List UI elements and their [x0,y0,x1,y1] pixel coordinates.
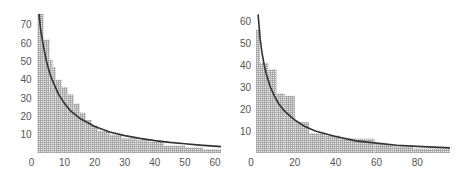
y-tick-label: 10 [240,126,252,137]
histogram-bars [256,30,450,153]
histogram-bar [393,146,413,153]
histogram-bar [325,135,339,153]
x-tick-label: 80 [412,157,424,168]
y-tick-label: 50 [240,38,252,49]
y-tick-label: 30 [240,82,252,93]
histogram-bar [309,133,325,153]
histogram-bar [434,149,450,153]
histogram-chart-right: 102030405060020406080 [0,0,468,174]
x-tick-label: 40 [330,157,342,168]
x-axis-labels: 020406080 [248,157,423,168]
figure: 102030405060700102030405060 102030405060… [0,0,468,174]
histogram-bar [256,30,260,153]
histogram-bar [374,144,392,153]
x-tick-label: 20 [289,157,301,168]
y-tick-label: 60 [240,16,252,27]
histogram-bar [413,149,433,153]
histogram-bar [285,96,295,153]
y-tick-label: 20 [240,104,252,115]
y-axis-labels: 102030405060 [240,16,252,137]
x-tick-label: 0 [248,157,254,168]
y-tick-label: 40 [240,60,252,71]
x-tick-label: 60 [371,157,383,168]
